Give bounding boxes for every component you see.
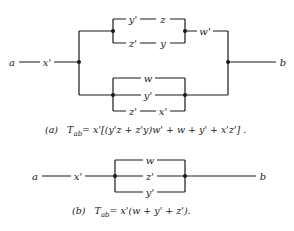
contact-w-prime: w' — [199, 26, 210, 37]
terminal-a-label-b: a — [32, 171, 38, 182]
contact-x-prime-b: x' — [74, 171, 82, 182]
caption-b: (b) Tab= x'(w + y' + z'). — [72, 205, 191, 219]
contact-z-prime: z' — [128, 38, 137, 49]
contact-z: z — [159, 14, 166, 25]
contact-z-prime-lower: z' — [128, 106, 137, 117]
contact-z-prime-b: z' — [145, 171, 154, 182]
contact-y-prime: y' — [128, 14, 137, 25]
contact-y-prime-b: y' — [145, 187, 154, 198]
contact-w-b: w — [146, 155, 155, 166]
terminal-b-label: b — [280, 57, 286, 68]
terminal-b-label-b: b — [260, 171, 266, 182]
caption-b-label: (b) — [72, 205, 86, 216]
contact-x-prime: x' — [43, 57, 51, 68]
terminal-a-label: a — [9, 57, 15, 68]
contact-w: w — [144, 73, 153, 84]
contact-y: y — [159, 38, 166, 49]
contact-y-prime-lower: y' — [143, 90, 152, 101]
contact-x-prime-lower: x' — [159, 106, 167, 117]
caption-a-expression: = x'[(y'z + z'y)w' + w + y' + x'z'] . — [82, 124, 246, 135]
caption-a-label: (a) — [45, 124, 58, 135]
circuit-b: a x' w z' y' b (b) Tab= x'(w + y' + z'). — [32, 154, 266, 219]
caption-a: (a) Tab= x'[(y'z + z'y)w' + w + y' + x'z… — [45, 124, 246, 138]
circuit-a: a x' y' z z' y w' w y' z' x' b (a) Tab= … — [9, 13, 286, 138]
switching-circuit-figure: a x' y' z z' y w' w y' z' x' b (a) Tab= … — [0, 0, 294, 231]
caption-b-expression: = x'(w + y' + z'). — [110, 205, 191, 216]
